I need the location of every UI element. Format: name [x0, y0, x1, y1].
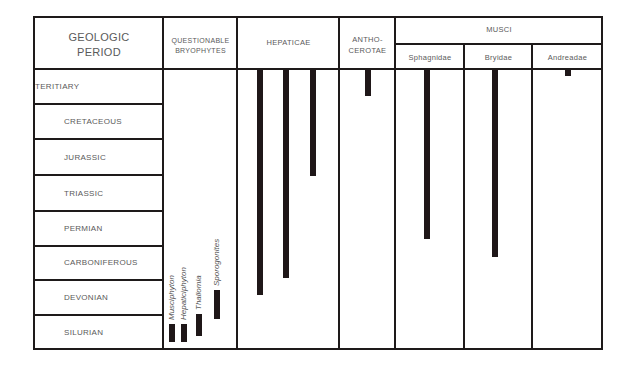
row-divider: [33, 314, 164, 316]
range-bar-hepaticae-2: [283, 70, 289, 278]
period-label: JURASSIC: [35, 153, 135, 162]
header-bottom-line: [33, 68, 603, 70]
column-divider: [236, 16, 238, 350]
header-hepaticae: HEPATICAE: [238, 38, 339, 47]
header-geologic-period-line1: GEOLOGIC: [35, 30, 163, 45]
range-bar-sphagnidae: [424, 70, 430, 239]
row-divider: [33, 210, 164, 212]
label-hepaticiphyton: Hepaticiphyton: [179, 267, 188, 320]
row-divider: [33, 138, 164, 140]
range-bar-hepaticiphyton: [181, 324, 187, 342]
range-bar-hepaticae-3: [310, 70, 316, 176]
header-anthocerotae-line1: ANTHO-: [340, 34, 395, 45]
range-bar-thallomia: [196, 314, 202, 336]
period-label: CARBONIFEROUS: [35, 258, 135, 267]
table-border-top: [33, 16, 603, 18]
header-anthocerotae: ANTHO- CEROTAE: [340, 34, 395, 56]
header-bryidae: Bryidae: [465, 53, 532, 62]
column-divider: [463, 43, 465, 350]
column-divider: [394, 16, 396, 350]
range-bar-musciphyton: [169, 324, 175, 342]
period-label: PERMIAN: [35, 224, 135, 233]
header-sphagnidae: Sphagnidae: [396, 53, 464, 62]
range-bar-sporogonites: [214, 290, 220, 319]
range-bar-andreadae: [565, 70, 571, 76]
header-geologic-period: GEOLOGIC PERIOD: [35, 30, 163, 60]
column-divider: [531, 43, 533, 350]
period-label: SILURIAN: [35, 328, 135, 337]
table-border-right: [601, 16, 603, 350]
header-musci: MUSCI: [396, 25, 602, 34]
period-label: TERITIARY: [35, 82, 135, 91]
column-divider: [162, 16, 164, 350]
musci-subheader-line: [394, 43, 603, 45]
row-divider: [33, 245, 164, 247]
table-border-bottom: [33, 348, 603, 350]
range-bar-bryidae: [492, 70, 498, 257]
header-questionable-line1: QUESTIONABLE: [164, 36, 237, 46]
header-questionable-line2: BRYOPHYTES: [164, 46, 237, 56]
row-divider: [33, 279, 164, 281]
label-thallomia: Thallomia: [194, 275, 203, 310]
label-musciphyton: Musciphyton: [167, 275, 176, 320]
header-geologic-period-line2: PERIOD: [35, 45, 163, 60]
row-divider: [33, 103, 164, 105]
header-questionable-bryophytes: QUESTIONABLE BRYOPHYTES: [164, 36, 237, 56]
period-label: CRETACEOUS: [35, 117, 135, 126]
row-divider: [33, 174, 164, 176]
period-label: TRIASSIC: [35, 189, 135, 198]
column-divider: [338, 16, 340, 350]
header-andreadae: Andreadae: [533, 53, 602, 62]
period-label: DEVONIAN: [35, 293, 135, 302]
range-bar-anthocerotae: [365, 70, 371, 96]
label-sporogonites: Sporogonites: [212, 239, 221, 286]
range-bar-hepaticae-1: [257, 70, 263, 295]
header-anthocerotae-line2: CEROTAE: [340, 45, 395, 56]
